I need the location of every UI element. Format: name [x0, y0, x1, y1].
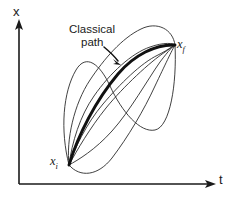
initial-point-label: xi	[50, 155, 58, 170]
diagram-canvas	[0, 0, 233, 203]
axes-group	[15, 19, 216, 188]
initial-point-label-sub: i	[56, 161, 58, 171]
x-axis-label: x	[13, 5, 20, 18]
quantum-path-5	[69, 45, 175, 165]
classical-path-annotation-line-2: path	[81, 37, 103, 49]
t-axis-label: t	[219, 173, 223, 186]
classical-path-annotation-line-1: Classical	[69, 24, 115, 36]
final-point-label: xf	[177, 38, 185, 53]
path-integral-figure: x t Classical path xf xi	[0, 0, 233, 203]
classical-path-pointer	[104, 47, 121, 65]
final-point-label-sub: f	[183, 44, 185, 54]
